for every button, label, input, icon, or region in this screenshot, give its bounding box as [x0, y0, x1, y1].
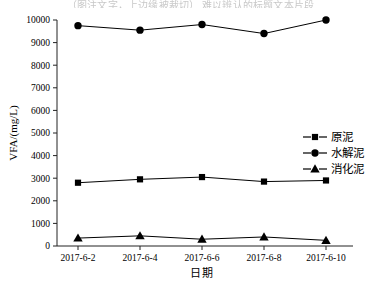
marker-square [137, 176, 143, 182]
marker-circle [198, 21, 205, 28]
series-消化泥 [73, 231, 330, 244]
marker-square [261, 178, 267, 184]
y-tick-label: 1000 [31, 219, 50, 229]
x-tick-label: 2017-6-6 [185, 253, 220, 263]
marker-triangle [135, 231, 144, 239]
x-axis-title: 日期 [190, 267, 214, 280]
marker-square [75, 180, 81, 186]
y-tick-label: 4000 [31, 151, 50, 161]
marker-square [323, 177, 329, 183]
marker-square [312, 134, 318, 140]
series-水解泥 [74, 16, 329, 37]
x-tick-label: 2017-6-10 [306, 253, 346, 263]
chart-figure: （图注文字，上边缘被裁切） 难以辨认的标题文本片段 01000200030004… [0, 0, 381, 286]
series-layer [73, 16, 330, 244]
y-axis: 0100020003000400050006000700080009000100… [26, 15, 57, 251]
y-axis-title: VFA/(mg/L) [7, 105, 20, 161]
legend-item-水解泥: 水解泥 [303, 146, 364, 160]
y-tick-label: 0 [45, 241, 50, 251]
legend-label: 原泥 [331, 130, 353, 144]
x-tick-label: 2017-6-4 [123, 253, 158, 263]
y-tick-label: 3000 [31, 174, 50, 184]
chart-legend: 原泥水解泥消化泥 [303, 130, 364, 176]
y-tick-label: 5000 [31, 128, 50, 138]
marker-circle [322, 16, 329, 23]
marker-circle [311, 149, 318, 156]
marker-triangle [259, 232, 268, 240]
x-axis: 2017-6-22017-6-42017-6-62017-6-82017-6-1… [57, 246, 353, 263]
legend-item-消化泥: 消化泥 [303, 162, 364, 176]
marker-circle [74, 22, 81, 29]
legend-label: 消化泥 [331, 162, 364, 176]
x-tick-label: 2017-6-2 [61, 253, 96, 263]
marker-circle [260, 30, 267, 37]
x-tick-label: 2017-6-8 [247, 253, 282, 263]
y-tick-label: 9000 [31, 38, 50, 48]
y-tick-label: 7000 [31, 83, 50, 93]
y-tick-label: 10000 [26, 15, 50, 25]
line-chart-svg: 0100020003000400050006000700080009000100… [0, 0, 381, 286]
y-tick-label: 6000 [31, 106, 50, 116]
y-tick-label: 8000 [31, 61, 50, 71]
marker-triangle [310, 164, 319, 172]
legend-item-原泥: 原泥 [303, 130, 353, 144]
legend-label: 水解泥 [331, 146, 364, 160]
series-原泥 [75, 174, 329, 186]
y-tick-label: 2000 [31, 196, 50, 206]
marker-square [199, 174, 205, 180]
marker-circle [136, 26, 143, 33]
